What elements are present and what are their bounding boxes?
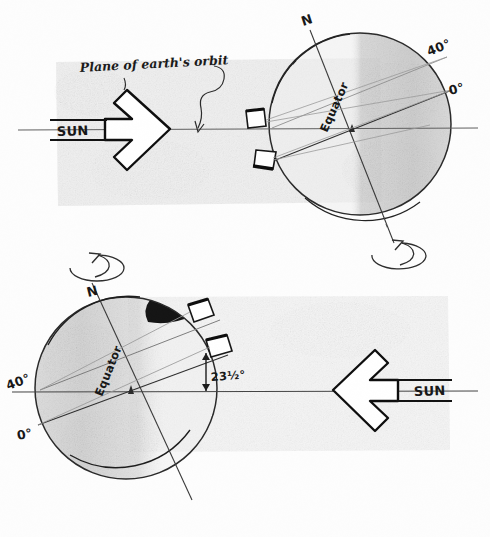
paper-grain-overlay	[0, 0, 490, 537]
diagram-sheet: SUN Plane of earth's orbit N Equator 40°…	[0, 0, 490, 537]
earth-tilt-diagram: SUN Plane of earth's orbit N Equator 40°…	[0, 0, 490, 537]
